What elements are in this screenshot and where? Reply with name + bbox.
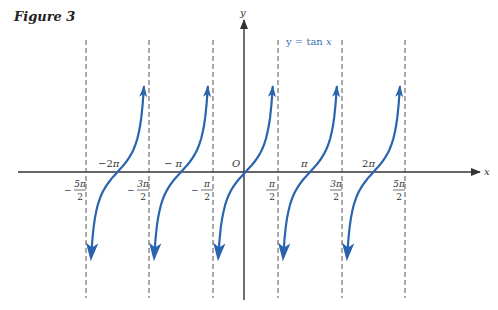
svg-text:3π: 3π xyxy=(137,179,150,189)
svg-text:2: 2 xyxy=(204,192,210,202)
tangent-graph: y x O y = tan x −2π − π π 2π −5π2−3π2−π2… xyxy=(0,0,498,310)
svg-text:2: 2 xyxy=(77,192,83,202)
svg-text:π: π xyxy=(268,179,276,189)
label-2pi: 2π xyxy=(362,158,375,169)
svg-text:2: 2 xyxy=(269,192,275,202)
svg-text:−: − xyxy=(191,185,199,195)
svg-text:3π: 3π xyxy=(330,179,343,189)
asymptotes xyxy=(86,40,405,298)
tick-label: 5π2 xyxy=(393,179,406,202)
tick-label: 3π2 xyxy=(330,179,343,202)
svg-text:−: − xyxy=(64,185,72,195)
label-pi: π xyxy=(300,158,308,169)
svg-text:π: π xyxy=(203,179,211,189)
svg-text:2: 2 xyxy=(396,192,402,202)
tick-label: π2 xyxy=(266,179,278,202)
x-axis-label: x xyxy=(484,166,490,177)
svg-text:2: 2 xyxy=(333,192,339,202)
tick-label: −5π2 xyxy=(64,179,87,202)
origin-label: O xyxy=(232,158,240,169)
equation-label: y = tan x xyxy=(285,36,332,47)
label-neg-2pi: −2π xyxy=(98,158,120,169)
y-axis-label: y xyxy=(239,7,246,18)
tick-label: −3π2 xyxy=(127,179,150,202)
svg-text:−: − xyxy=(127,185,135,195)
svg-text:5π: 5π xyxy=(74,179,87,189)
svg-text:5π: 5π xyxy=(393,179,406,189)
tick-label: −π2 xyxy=(191,179,213,202)
label-neg-pi: − π xyxy=(164,158,183,169)
svg-text:2: 2 xyxy=(140,192,146,202)
